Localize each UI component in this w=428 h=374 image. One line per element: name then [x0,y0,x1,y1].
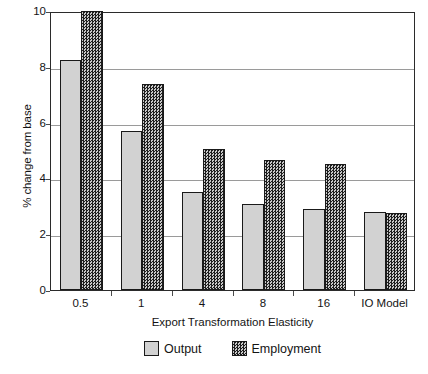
y-tick-label: 10 [24,6,46,18]
legend-label: Output [164,342,202,356]
x-tick-label: 4 [172,297,233,310]
bar-output-1 [121,131,143,290]
x-tick-label: 16 [293,297,354,310]
x-tick-mark [233,291,234,296]
x-tick-mark [354,291,355,296]
y-tick-mark [46,291,50,292]
bar-output-16 [303,209,325,290]
bar-employment-16 [325,164,347,290]
x-tick-label: 8 [233,297,294,310]
bar-employment-4 [203,149,225,290]
y-tick-label: 4 [24,173,46,185]
x-tick-mark [293,291,294,296]
plot-area [50,12,415,291]
y-tick-label: 8 [24,62,46,74]
bar-output-4 [182,192,204,290]
y-tick-label: 2 [24,229,46,241]
x-tick-label: 1 [111,297,172,310]
bar-employment-0.5 [81,11,103,290]
bar-employment-io-model [386,213,408,290]
y-tick-label: 0 [24,285,46,297]
x-tick-label: 0.5 [50,297,111,310]
y-tick-label: 6 [24,118,46,130]
bars-layer [51,13,414,290]
bar-employment-1 [142,84,164,290]
legend-item-employment: Employment [232,341,321,356]
chart-legend: OutputEmployment [50,341,415,356]
employment-swatch [232,341,247,356]
bar-output-0.5 [60,60,82,290]
bar-output-io-model [364,212,386,290]
bar-output-8 [242,204,264,290]
legend-item-output: Output [144,341,202,356]
output-swatch [144,341,159,356]
bar-chart: % change from base 0246810 0.514816IO Mo… [0,0,428,374]
bar-employment-8 [264,160,286,290]
x-tick-label: IO Model [354,297,415,310]
y-axis-ticks: 0246810 [22,0,46,374]
x-tick-mark [111,291,112,296]
x-tick-mark [172,291,173,296]
legend-label: Employment [252,342,321,356]
x-axis-title: Export Transformation Elasticity [50,316,415,328]
